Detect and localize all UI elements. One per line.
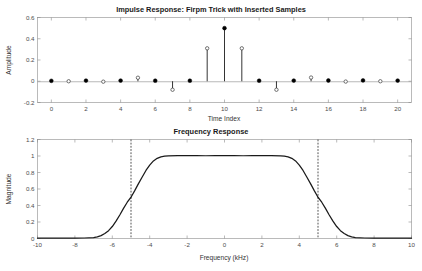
- freq-x-tick-label: 4: [298, 241, 302, 248]
- freq-y-tick-label: 0.6: [26, 185, 35, 192]
- frequency-response-svg: Frequency Response 00.20.40.60.811.2 -10…: [0, 125, 422, 271]
- freq-x-tick-label: -2: [184, 241, 190, 248]
- impulse-chart-title: Impulse Response: Firpm Trick with Inser…: [116, 5, 306, 14]
- impulse-stem-marker-open: [136, 76, 139, 79]
- impulse-stem-marker-filled: [84, 79, 88, 83]
- freq-y-tick-label: 1: [31, 152, 35, 159]
- freq-y-tick-label: 0.2: [26, 218, 35, 225]
- impulse-stem-marker-open: [171, 88, 174, 91]
- freq-plot-frame: [38, 140, 412, 239]
- impulse-stem-marker-open: [309, 76, 312, 79]
- impulse-stem-marker-filled: [188, 79, 192, 83]
- impulse-stem-marker-filled: [153, 79, 157, 83]
- impulse-stem-marker-filled: [223, 26, 227, 30]
- impulse-response-panel: Impulse Response: Firpm Trick with Inser…: [0, 0, 422, 125]
- impulse-x-tick-label: 18: [360, 105, 367, 112]
- impulse-response-svg: Impulse Response: Firpm Trick with Inser…: [0, 0, 422, 125]
- freq-chart-title: Frequency Response: [174, 127, 249, 136]
- impulse-y-tick-label: 0.4: [26, 35, 35, 42]
- freq-x-tick-label: -8: [72, 241, 78, 248]
- impulse-stem-marker-filled: [326, 79, 330, 83]
- figure-canvas: Impulse Response: Firpm Trick with Inser…: [0, 0, 422, 271]
- freq-y-tick-label: 0.4: [26, 202, 35, 209]
- freq-x-tick-label: 6: [335, 241, 339, 248]
- impulse-x-tick-label: 12: [256, 105, 263, 112]
- impulse-stem-marker-filled: [396, 79, 400, 83]
- freq-x-tick-label: 8: [372, 241, 376, 248]
- impulse-y-tick-label: 0.2: [26, 56, 35, 63]
- impulse-y-tick-label: -0.2: [24, 99, 35, 106]
- impulse-x-tick-label: 16: [325, 105, 332, 112]
- impulse-stem-marker-open: [205, 47, 208, 50]
- impulse-stem-marker-open: [67, 80, 70, 83]
- impulse-x-tick-label: 10: [221, 105, 228, 112]
- impulse-x-tick-label: 20: [394, 105, 401, 112]
- impulse-stem-marker-open: [275, 88, 278, 91]
- impulse-y-axis-label: Amplitude: [5, 45, 13, 75]
- impulse-stem-marker-filled: [257, 79, 261, 83]
- impulse-x-tick-label: 14: [290, 105, 297, 112]
- freq-y-tick-label: 0.8: [26, 169, 35, 176]
- impulse-x-tick-label: 4: [119, 105, 123, 112]
- impulse-x-tick-label: 8: [188, 105, 192, 112]
- freq-x-tick-label: 0: [223, 241, 227, 248]
- impulse-x-tick-label: 0: [50, 105, 54, 112]
- impulse-y-tick-label: 0.6: [26, 14, 35, 21]
- frequency-response-panel: Frequency Response 00.20.40.60.811.2 -10…: [0, 125, 422, 271]
- impulse-stem-marker-open: [102, 80, 105, 83]
- freq-x-tick-label: -4: [147, 241, 153, 248]
- impulse-y-tick-label: 0: [31, 77, 35, 84]
- freq-x-axis-label: Frequency (kHz): [200, 254, 249, 262]
- freq-x-tick-label: -6: [110, 241, 116, 248]
- freq-x-tick-label: 2: [260, 241, 264, 248]
- freq-x-tick-label: -10: [33, 241, 43, 248]
- impulse-x-tick-label: 2: [84, 105, 88, 112]
- freq-y-axis-label: Magnitude: [5, 173, 13, 204]
- impulse-stem-marker-open: [344, 80, 347, 83]
- impulse-stem-marker-open: [379, 80, 382, 83]
- impulse-x-axis-label: Time Index: [208, 115, 241, 122]
- impulse-stem-marker-open: [240, 47, 243, 50]
- freq-y-tick-label: 1.2: [26, 136, 35, 143]
- impulse-stem-marker-filled: [292, 79, 296, 83]
- impulse-stem-marker-filled: [119, 79, 123, 83]
- freq-x-tick-label: 10: [408, 241, 415, 248]
- impulse-x-tick-label: 6: [154, 105, 158, 112]
- impulse-stem-marker-filled: [49, 79, 53, 83]
- impulse-stem-marker-filled: [361, 79, 365, 83]
